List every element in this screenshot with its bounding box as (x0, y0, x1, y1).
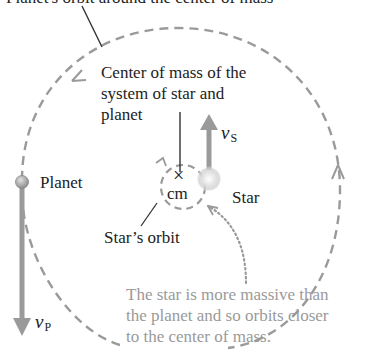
star-velocity-subscript: S (230, 131, 237, 145)
star-velocity-symbol: v (221, 122, 229, 143)
orbit-diagram: Planet's orbit around the center of mass… (0, 0, 386, 358)
top-label-clipped: Planet's orbit around the center of mass (6, 0, 273, 8)
star-orbit-label: Star’s orbit (104, 228, 180, 248)
star-velocity-arrow (200, 114, 218, 170)
star-orbit-arrowhead-icon (156, 158, 166, 166)
star-label: Star (232, 188, 259, 208)
note-line1: The star is more massive than (126, 285, 329, 305)
note-pointer (208, 206, 246, 283)
cm-label: cm (167, 184, 188, 204)
orbit-arrowhead-icon (72, 70, 86, 81)
star-orbit-leader (141, 203, 157, 226)
planet-velocity-arrow (13, 188, 31, 336)
note-line2: the planet and so orbits closer (126, 306, 329, 326)
planet-velocity-symbol: v (35, 311, 43, 332)
center-of-mass-label-line3: planet (101, 105, 143, 125)
center-of-mass-label-line1: Center of mass of the (101, 63, 246, 83)
planet-label: Planet (40, 173, 83, 193)
star-velocity-label: vS (221, 123, 237, 145)
top-label-leader (82, 6, 102, 47)
note-line3: to the center of mass. (126, 327, 271, 347)
planet-velocity-subscript: P (44, 320, 51, 334)
center-of-mass-label-line2: system of star and (101, 84, 224, 104)
planet-icon (16, 176, 29, 189)
planet-velocity-label: vP (35, 312, 51, 334)
cm-marker-icon: × (173, 165, 184, 185)
star-icon (196, 166, 222, 192)
